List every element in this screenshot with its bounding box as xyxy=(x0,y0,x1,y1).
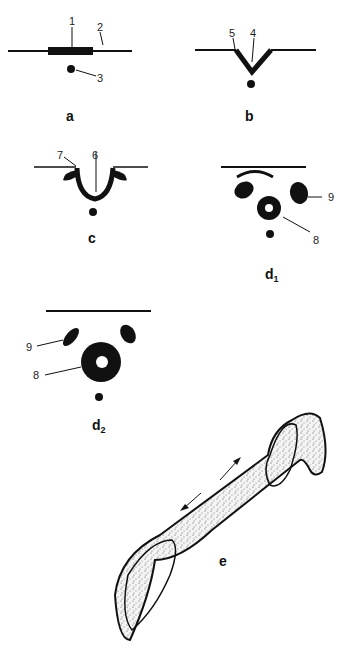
panel-d2: 9 8 d2 xyxy=(26,311,151,435)
panel-label-a: a xyxy=(66,108,74,124)
callout-6: 6 xyxy=(92,149,98,161)
notochord xyxy=(89,208,97,216)
callout-1: 1 xyxy=(69,15,75,27)
neural-tube-diagram: 1 2 3 a 5 4 b 6 7 c xyxy=(0,0,349,657)
callout-4: 4 xyxy=(250,27,256,39)
callout-9: 9 xyxy=(328,191,334,203)
panel-a: 1 2 3 a xyxy=(8,15,132,124)
neural-crest-left xyxy=(60,325,82,348)
panel-d1: 9 8 d1 xyxy=(221,167,334,284)
neural-crest-right xyxy=(287,180,310,206)
neural-crest-right xyxy=(113,170,127,181)
neural-crest-left xyxy=(231,178,256,202)
panel-label-e: e xyxy=(219,553,227,569)
callout-8: 8 xyxy=(33,369,39,381)
panel-label-c: c xyxy=(88,230,96,246)
neural-plate xyxy=(48,47,93,55)
notochord xyxy=(266,230,274,238)
callout-7: 7 xyxy=(57,149,63,161)
neural-tube-longitudinal xyxy=(115,413,326,640)
callout-3: 3 xyxy=(97,72,103,84)
panel-label-d1: d1 xyxy=(265,266,279,284)
panel-b: 5 4 b xyxy=(195,27,316,124)
callout-8: 8 xyxy=(313,234,319,246)
notochord xyxy=(247,80,255,88)
notochord xyxy=(95,393,103,401)
callout-9: 9 xyxy=(26,341,32,353)
neural-groove xyxy=(236,50,271,72)
panel-label-d2: d2 xyxy=(92,417,106,435)
panel-c: 6 7 c xyxy=(34,149,148,246)
neural-crest-right xyxy=(117,322,139,346)
callout-2: 2 xyxy=(97,21,103,33)
panel-label-b: b xyxy=(245,108,254,124)
notochord xyxy=(67,65,75,73)
panel-e: e xyxy=(115,413,326,640)
neural-crest-left xyxy=(63,170,77,181)
callout-5: 5 xyxy=(229,27,235,39)
neural-groove-deep xyxy=(77,168,113,199)
